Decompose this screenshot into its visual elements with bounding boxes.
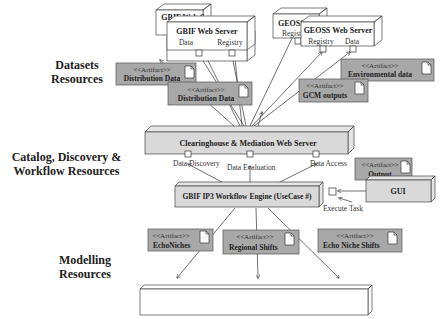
gbif-server-front-body[interactable]: GBIF Web Server Data Registry	[167, 16, 255, 56]
clearinghouse-server[interactable]: Clearinghouse & Mediation Web Server Dat…	[145, 126, 354, 172]
geoss-front-port-registry: Registry	[308, 37, 334, 46]
biodiversity-model-server[interactable]	[140, 285, 372, 315]
gui-node[interactable]: GUI	[366, 176, 435, 202]
label-data-access: Data Access	[310, 159, 347, 168]
artifact-echoniches[interactable]: <<Artifact>> EchoNiches	[148, 229, 213, 251]
workflow-title: GBIF IP3 Workflow Engine (UseCase #)	[183, 192, 312, 201]
document-icon	[355, 82, 364, 94]
artifact-environmental-data[interactable]: <<Artifact>> Environmental data	[341, 59, 434, 81]
port-data-discovery[interactable]	[185, 151, 191, 157]
artifact-name: Regional Shifts	[229, 243, 278, 252]
artifact-name: Environmental data	[348, 70, 412, 79]
stereotype: <<Artifact>>	[306, 82, 344, 90]
artifact-gcm-outputs[interactable]: <<Artifact>> GCM outputs	[299, 79, 368, 102]
clearinghouse-title: Clearinghouse & Mediation Web Server	[179, 139, 317, 148]
geoss-front-port-data: Data	[345, 37, 360, 46]
document-icon	[185, 66, 194, 78]
stereotype: <<Artifact>>	[236, 233, 274, 241]
gui-title: GUI	[390, 187, 405, 196]
document-icon	[200, 231, 209, 243]
label-data-discovery: Data Discovery	[173, 159, 220, 168]
stereotype: <<Artifact>>	[336, 232, 374, 240]
stereotype: <<Artifact>>	[187, 86, 225, 94]
gbif-front-port-data: Data	[179, 38, 194, 47]
port-execute-task[interactable]	[329, 188, 336, 195]
port-data-evaluation[interactable]	[247, 151, 253, 157]
artifact-name: GCM outputs	[303, 91, 347, 100]
port-data-access[interactable]	[313, 151, 319, 157]
gbif-front-port-registry: Registry	[217, 38, 243, 47]
artifact-name: EchoNiches	[153, 241, 191, 250]
artifact-distribution-data-2[interactable]: <<Artifact>> Distribution Data	[168, 82, 252, 105]
label-data-evaluation: Data Evaluation	[227, 163, 276, 172]
stereotype: <<Artifact>>	[133, 66, 171, 74]
stereotype: <<Artifact>>	[152, 232, 190, 240]
artifact-echo-niche-shifts[interactable]: <<Artifact>> Echo Niche Shifts	[318, 229, 402, 252]
geoss-front-title: GEOSS Web Server	[304, 26, 373, 35]
label-execute-task: Execute Task	[323, 204, 363, 213]
geoss-server-front[interactable]: GEOSS Web Server Registry Data	[301, 16, 382, 52]
gbif-front-title: GBIF Web Server	[176, 27, 238, 36]
document-icon	[388, 232, 397, 244]
artifact-name: Distribution Data	[178, 94, 235, 103]
workflow-engine[interactable]: GBIF IP3 Workflow Engine (UseCase #) Exe…	[175, 182, 363, 213]
artifact-regional-shifts[interactable]: <<Artifact>> Regional Shifts	[223, 230, 299, 254]
document-icon	[285, 233, 294, 245]
document-icon	[401, 161, 410, 173]
stereotype: <<Artifact>>	[361, 161, 399, 169]
document-icon	[422, 62, 431, 74]
artifact-name: Echo Niche Shifts	[323, 241, 380, 250]
stereotype: <<Artifact>>	[361, 62, 399, 70]
document-icon	[239, 85, 248, 97]
